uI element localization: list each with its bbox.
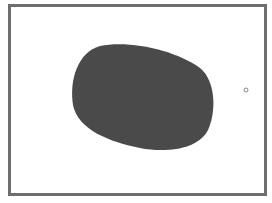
figure-canvas bbox=[0, 0, 272, 203]
dark-blob-shape bbox=[72, 44, 213, 150]
small-circle-marker bbox=[244, 88, 248, 92]
